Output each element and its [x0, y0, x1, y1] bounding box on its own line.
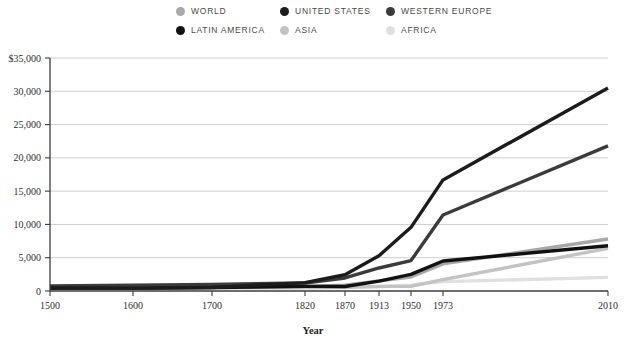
- x-tick-label: 1950: [401, 300, 421, 311]
- y-tick-label: $35,000: [9, 53, 42, 64]
- y-axis-ticks: 05,00010,00015,00020,00025,00030,000$35,…: [9, 53, 51, 297]
- x-tick-label: 1870: [335, 300, 355, 311]
- x-axis-title: Year: [303, 325, 324, 336]
- y-tick-label: 15,000: [14, 186, 42, 197]
- y-tick-label: 30,000: [14, 86, 42, 97]
- x-tick-label: 1973: [433, 300, 453, 311]
- x-tick-label: 1820: [295, 300, 315, 311]
- series-line-latin-america: [50, 246, 608, 289]
- y-tick-label: 10,000: [14, 219, 42, 230]
- x-tick-label: 1700: [202, 300, 222, 311]
- gridlines: [50, 58, 608, 258]
- x-tick-label: 1600: [123, 300, 143, 311]
- x-tick-label: 1500: [40, 300, 60, 311]
- y-tick-label: 0: [36, 286, 41, 297]
- y-tick-label: 5,000: [19, 252, 42, 263]
- series-lines: [50, 88, 608, 288]
- x-tick-label: 1913: [369, 300, 389, 311]
- y-tick-label: 20,000: [14, 152, 42, 163]
- x-tick-label: 2010: [598, 300, 618, 311]
- line-chart-plot: 05,00010,00015,00020,00025,00030,000$35,…: [0, 0, 626, 346]
- x-axis-ticks: 150016001700182018701913195019732010: [40, 291, 618, 311]
- chart-container: WORLD UNITED STATES WESTERN EUROPE LATIN…: [0, 0, 626, 346]
- y-tick-label: 25,000: [14, 119, 42, 130]
- series-line-united-states: [50, 88, 608, 288]
